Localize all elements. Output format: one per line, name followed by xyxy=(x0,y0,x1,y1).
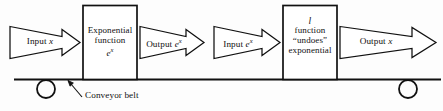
exponential-machine-line3: ex xyxy=(82,46,138,59)
output-ex-arrow-label: Output ex xyxy=(139,37,189,50)
input-x-arrow-label: Input x xyxy=(10,37,70,47)
input-ex-arrow-label: Input ex xyxy=(213,37,263,50)
inverse-machine-line4: exponential xyxy=(282,46,338,56)
conveyor-belt-annotation: Conveyor belt xyxy=(85,91,139,101)
input-ex-prefix: Input xyxy=(223,39,245,49)
input-x-variable: x xyxy=(49,36,53,46)
input-ex-exponent: x xyxy=(250,37,253,44)
conveyor-belt-diagram: Input x Output ex Input ex Output x Expo… xyxy=(0,0,443,111)
exponential-base: e xyxy=(106,48,110,58)
output-ex-exponent: x xyxy=(179,37,182,44)
right-wheel-icon xyxy=(399,80,417,98)
exponential-machine-text: Exponential function ex xyxy=(82,26,138,59)
diagram-canvas xyxy=(0,0,443,111)
output-x-arrow-label: Output x xyxy=(348,37,404,47)
output-x-variable: x xyxy=(388,36,392,46)
output-ex-prefix: Output xyxy=(146,39,175,49)
input-x-prefix: Input xyxy=(27,36,49,46)
output-x-prefix: Output xyxy=(360,36,389,46)
exponential-machine-line2: function xyxy=(82,36,138,46)
left-wheel-icon xyxy=(37,80,55,98)
inverse-machine-text: l function “undoes” exponential xyxy=(282,16,338,56)
exponential-exponent: x xyxy=(111,46,114,53)
